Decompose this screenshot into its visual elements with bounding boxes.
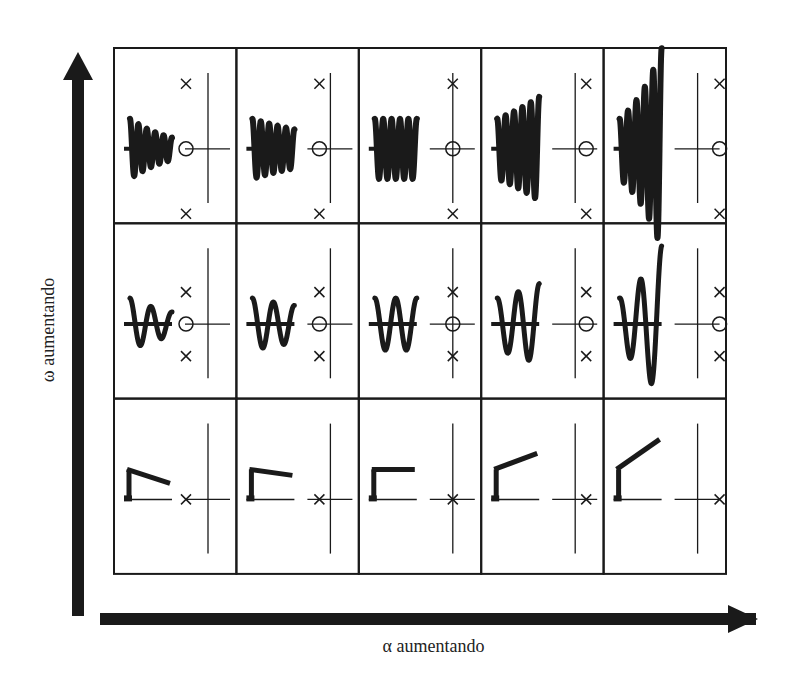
pole-zero-plot [181,424,230,554]
step-response-plot [614,48,662,238]
pole-zero-plot [307,73,352,219]
exponential-segment [494,453,537,469]
x-axis-arrow [100,605,758,633]
pole-zero-plot [675,73,727,219]
grid-cell [359,223,481,398]
oscillation-curve [620,48,662,238]
diagram-canvas [0,0,797,692]
step-response-plot [124,298,172,345]
grid-cell [114,223,236,398]
grid-cell [604,48,727,238]
oscillation-curve [252,119,294,178]
grid-cell [236,399,358,574]
x-axis-label: α aumentando [0,636,797,657]
cell-grid [114,48,727,574]
pole-zero-plot [179,248,230,378]
pole-marker-upper [314,79,324,89]
cell-border [236,399,358,574]
step-response-plot [491,453,539,501]
cell-border [114,399,236,574]
pole-marker-lower [181,209,191,219]
pole-marker-upper [715,79,725,89]
oscillation-curve [130,298,172,345]
pole-zero-plot [552,248,597,378]
grid-cell [481,48,603,223]
step-response-plot [246,469,294,501]
grid-cell [359,399,481,574]
oscillation-curve [497,284,539,361]
pole-marker-lower [181,351,191,361]
pole-zero-plot [179,73,230,219]
pole-marker-upper [581,287,591,297]
pole-marker-lower [314,351,324,361]
step-response-plot [124,469,172,501]
grid-cell [236,48,358,223]
step-response-plot [614,246,662,384]
pole-marker-upper [181,79,191,89]
step-response-plot [369,119,417,179]
pole-marker-lower [581,209,591,219]
cell-border [359,399,481,574]
pole-zero-plot [552,73,597,219]
step-response-plot [614,439,662,501]
pole-zero-plot [307,248,352,378]
cell-border [604,399,726,574]
step-response-plot [491,284,539,361]
oscillation-curve [497,97,539,198]
pole-zero-plot [307,424,352,554]
step-response-plot [369,298,417,350]
oscillation-curve [130,119,172,176]
pole-marker-lower [715,351,725,361]
pole-zero-plot [675,424,725,554]
exponential-segment [617,439,660,469]
step-response-plot [369,469,417,501]
y-axis-arrow [63,52,93,616]
step-response-plot [491,97,539,198]
grid-cell [359,48,481,223]
pole-marker-lower [314,209,324,219]
pole-marker-lower [715,209,725,219]
pole-marker-upper [715,287,725,297]
y-axis-label: ω aumentando [38,278,59,382]
step-response-plot [124,119,172,176]
step-response-plot [246,119,294,178]
cell-border [481,399,603,574]
pole-marker-upper [581,79,591,89]
grid-cell [481,223,603,398]
grid-cell [114,399,236,574]
pole-zero-plot [430,73,475,219]
pole-marker-upper [181,287,191,297]
grid-cell [604,223,727,398]
pole-zero-plot [675,248,727,378]
pole-zero-plot [552,424,597,554]
grid-cell [604,399,726,574]
oscillation-curve [375,119,417,179]
step-response-plot [246,298,294,348]
pole-marker-lower [448,209,458,219]
pole-zero-plot [430,424,475,554]
grid-cell [114,48,236,223]
grid-cell [481,399,603,574]
oscillation-curve [620,246,662,384]
pole-marker-lower [581,351,591,361]
exponential-segment [249,469,292,475]
grid-cell [236,223,358,398]
exponential-segment [127,469,170,483]
pole-zero-plot [430,248,475,378]
pole-marker-upper [314,287,324,297]
